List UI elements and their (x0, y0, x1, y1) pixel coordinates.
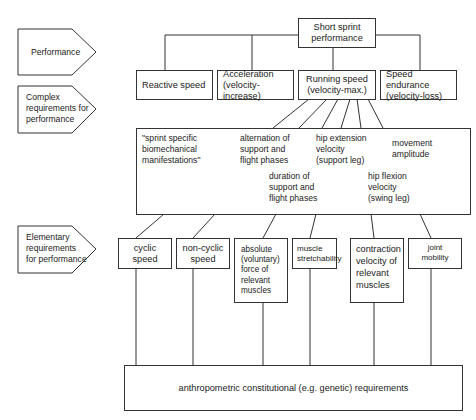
complex-item-movement-amplitude: movement amplitude (392, 138, 432, 160)
box-reactive-speed: Reactive speed (136, 70, 213, 100)
complex-item-alternation: alternation of support and flight phases (240, 133, 290, 166)
box-speed-endurance: Speed endurance (velocity-loss) (380, 70, 457, 100)
root-box-short-sprint: Short sprint performance (298, 18, 376, 48)
box-anthropometric-base: anthropometric constitutional (e.g. gene… (124, 365, 463, 411)
box-text: Speed endurance (velocity-loss) (386, 69, 451, 102)
row-label-performance: Performance (31, 47, 80, 58)
box-text: muscle stretchability (297, 244, 341, 264)
box-acceleration: Acceleration (velocity-increase) (217, 70, 294, 100)
box-running-speed: Running speed (velocity-max.) (298, 70, 376, 100)
complex-item-hip-extension: hip extension velocity (support leg) (316, 133, 367, 166)
box-text: Running speed (velocity-max.) (306, 74, 368, 96)
box-text: contraction velocity of relevant muscles (356, 243, 401, 291)
box-absolute-force: absolute (voluntary) force of relevant m… (234, 238, 288, 303)
box-text: joint mobility (421, 243, 448, 263)
complex-item-sprint-specific: "sprint specific biomechanical manifesta… (142, 133, 200, 166)
row-label-elementary: Elementary requirements for performance (26, 232, 87, 265)
box-joint-mobility: joint mobility (408, 238, 462, 269)
box-text: cyclic speed (124, 243, 166, 265)
box-text: Acceleration (velocity-increase) (223, 69, 288, 102)
box-text: anthropometric constitutional (e.g. gene… (179, 383, 409, 394)
row-label-complex: Complex requirements for performance (26, 92, 89, 125)
box-cyclic-speed: cyclic speed (118, 238, 172, 269)
box-muscle-stretchability: muscle stretchability (292, 238, 337, 269)
box-text: non-cyclic speed (183, 243, 224, 265)
complex-item-hip-flexion: hip flexion velocity (swing leg) (368, 171, 410, 204)
complex-item-duration: duration of support and flight phases (269, 171, 317, 204)
box-non-cyclic-speed: non-cyclic speed (176, 238, 230, 269)
box-text: Reactive speed (142, 80, 205, 91)
box-contraction-velocity: contraction velocity of relevant muscles (350, 238, 404, 303)
root-box-text: Short sprint performance (311, 22, 363, 44)
box-text: absolute (voluntary) force of relevant m… (241, 245, 280, 296)
